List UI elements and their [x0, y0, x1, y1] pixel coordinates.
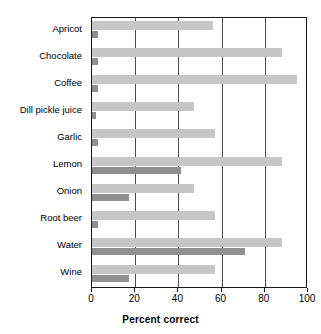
- bar-light: [92, 102, 194, 111]
- bar-dark: [92, 275, 129, 282]
- bar-dark: [92, 167, 181, 174]
- x-tick-label: 100: [299, 293, 316, 305]
- bar-light: [92, 211, 215, 220]
- y-axis-category-labels: ApricotChocolateCoffeeDill pickle juiceG…: [0, 17, 87, 288]
- plot-inner: [92, 18, 306, 287]
- bar-group: [92, 75, 306, 92]
- x-tick-40: [177, 288, 178, 292]
- bar-group: [92, 238, 306, 255]
- bar-dark: [92, 31, 98, 38]
- bar-light: [92, 75, 297, 84]
- bar-light: [92, 48, 282, 57]
- x-axis-title: Percent correct: [0, 314, 321, 325]
- bar-group: [92, 157, 306, 174]
- bar-light: [92, 129, 215, 138]
- bar-chart: ApricotChocolateCoffeeDill pickle juiceG…: [0, 0, 321, 334]
- x-tick-label: 80: [258, 293, 269, 305]
- bar-light: [92, 184, 194, 193]
- x-tick-label: 0: [88, 293, 94, 305]
- y-axis-label: Lemon: [53, 159, 82, 169]
- y-axis-label: Chocolate: [39, 51, 82, 61]
- x-axis-tick-labels: 020406080100: [91, 293, 307, 307]
- bar-dark: [92, 112, 96, 119]
- bar-group: [92, 265, 306, 282]
- bar-group: [92, 211, 306, 228]
- x-tick-label: 40: [172, 293, 183, 305]
- bar-group: [92, 48, 306, 65]
- bar-dark: [92, 58, 98, 65]
- x-tick-20: [134, 288, 135, 292]
- bar-light: [92, 21, 213, 30]
- y-axis-label: Dill pickle juice: [20, 105, 82, 115]
- x-tick-label: 60: [215, 293, 226, 305]
- bar-dark: [92, 85, 98, 92]
- y-axis-label: Garlic: [57, 132, 82, 142]
- y-axis-label: Onion: [57, 186, 82, 196]
- x-tick-0: [91, 288, 92, 292]
- bar-group: [92, 129, 306, 146]
- bar-dark: [92, 139, 98, 146]
- bar-light: [92, 157, 282, 166]
- bar-group: [92, 184, 306, 201]
- bar-light: [92, 265, 215, 274]
- y-axis-label: Root beer: [40, 213, 82, 223]
- bar-group: [92, 21, 306, 38]
- x-tick-80: [264, 288, 265, 292]
- y-axis-label: Apricot: [52, 24, 82, 34]
- x-tick-100: [307, 288, 308, 292]
- x-tick-label: 20: [129, 293, 140, 305]
- bar-dark: [92, 194, 129, 201]
- bar-dark: [92, 221, 98, 228]
- bar-light: [92, 238, 282, 247]
- y-axis-label: Water: [57, 240, 82, 250]
- y-axis-label: Wine: [60, 267, 82, 277]
- plot-area: [91, 17, 307, 288]
- x-tick-60: [221, 288, 222, 292]
- bar-dark: [92, 248, 245, 255]
- bar-group: [92, 102, 306, 119]
- y-axis-label: Coffee: [54, 78, 82, 88]
